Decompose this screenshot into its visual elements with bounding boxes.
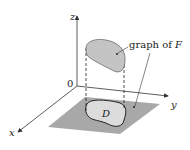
surface-leader-dot [116, 53, 118, 55]
y-axis-label: y [170, 99, 177, 110]
plane-leader-dot [133, 106, 135, 108]
x-axis-label: x [9, 127, 15, 138]
surface-label-prefix: graph of [129, 39, 175, 50]
surface-graph-f [86, 39, 125, 72]
surface-projection-diagram: z 0 y x graph of F D [0, 0, 190, 150]
z-axis-label: z [69, 11, 76, 22]
y-axis [77, 86, 168, 96]
surface-label-var: F [174, 39, 183, 50]
surface-label: graph of F [129, 39, 183, 50]
origin-label: 0 [67, 78, 73, 89]
region-label: D [101, 108, 110, 119]
plane-leader-line [135, 53, 150, 106]
